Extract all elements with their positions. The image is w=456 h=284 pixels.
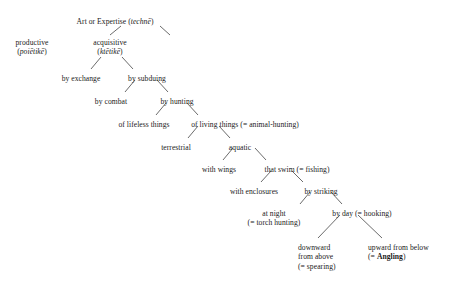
node-label-line-3: (= spearing) bbox=[298, 262, 336, 271]
node-label-line-1: Art or Expertise (technē) bbox=[77, 17, 154, 26]
node-label-line-2: from above bbox=[298, 252, 336, 261]
node-label-line-2: (= Angling) bbox=[368, 252, 429, 261]
node-label-line-2: (poiētikē) bbox=[16, 47, 49, 56]
node-label-line-2: (ktētikē) bbox=[93, 47, 126, 56]
node-label-line-1: of lifeless things bbox=[118, 120, 169, 129]
node-label-line-1: terrestrial bbox=[161, 143, 191, 152]
node-label-line-1: by exchange bbox=[62, 74, 101, 83]
node-label-line-1: by striking bbox=[304, 187, 337, 196]
node-downward-from-above-spearing: downwardfrom above(= spearing) bbox=[298, 243, 336, 271]
node-label-line-1: by hunting bbox=[160, 97, 193, 106]
greek-term: poiētikē bbox=[20, 47, 44, 56]
node-by-subduing: by subduing bbox=[128, 74, 166, 83]
node-by-hunting: by hunting bbox=[160, 97, 193, 106]
edge-layer bbox=[0, 0, 456, 284]
edge-techne-productive bbox=[110, 26, 121, 35]
node-label-line-1: that swim (= fishing) bbox=[264, 165, 329, 174]
node-that-swim-fishing: that swim (= fishing) bbox=[264, 165, 329, 174]
node-label-line-1: by day (= hooking) bbox=[332, 209, 391, 218]
node-acquisitive: acquisitive(ktētikē) bbox=[93, 38, 126, 57]
node-label-line-1: by subduing bbox=[128, 74, 166, 83]
node-by-combat: by combat bbox=[95, 97, 127, 106]
division-diagram: Art or Expertise (technē)productive(poiē… bbox=[0, 0, 456, 284]
node-label-line-1: by combat bbox=[95, 97, 127, 106]
node-terrestrial: terrestrial bbox=[161, 143, 191, 152]
node-by-striking: by striking bbox=[304, 187, 337, 196]
node-at-night-torch-hunting: at night(= torch hunting) bbox=[248, 209, 301, 228]
node-label-line-1: at night bbox=[248, 209, 301, 218]
node-label-line-2: (= torch hunting) bbox=[248, 218, 301, 227]
node-label-line-1: upward from below bbox=[368, 243, 429, 252]
node-art-or-expertise: Art or Expertise (technē) bbox=[77, 17, 154, 26]
edge-by-day-upward bbox=[358, 215, 382, 238]
edge-techne-acquisitive bbox=[160, 26, 170, 35]
node-of-living-things: of living things (= animal-hunting) bbox=[191, 120, 299, 129]
node-label-line-1: downward bbox=[298, 243, 336, 252]
node-by-day-hooking: by day (= hooking) bbox=[332, 209, 391, 218]
node-label-line-1: with enclosures bbox=[230, 187, 278, 196]
greek-term: technē bbox=[131, 17, 151, 26]
edge-acquisitive-by-subduing bbox=[122, 57, 133, 69]
node-label-line-1: productive bbox=[16, 38, 49, 47]
node-aquatic: aquatic bbox=[229, 143, 251, 152]
node-label-line-1: of living things (= animal-hunting) bbox=[191, 120, 299, 129]
node-label-line-1: with wings bbox=[202, 165, 236, 174]
node-with-wings: with wings bbox=[202, 165, 236, 174]
angling-term: Angling bbox=[377, 252, 403, 261]
node-productive: productive(poiētikē) bbox=[16, 38, 49, 57]
node-label-line-1: aquatic bbox=[229, 143, 251, 152]
edge-acquisitive-by-exchange bbox=[91, 57, 101, 69]
node-label-line-1: acquisitive bbox=[93, 38, 126, 47]
edge-aquatic-that-swim bbox=[255, 148, 266, 160]
node-by-exchange: by exchange bbox=[62, 74, 101, 83]
greek-term: ktētikē bbox=[100, 47, 120, 56]
node-upward-from-below-angling: upward from below(= Angling) bbox=[368, 243, 429, 262]
edge-by-day-downward bbox=[318, 215, 340, 238]
node-of-lifeless-things: of lifeless things bbox=[118, 120, 169, 129]
node-with-enclosures: with enclosures bbox=[230, 187, 278, 196]
